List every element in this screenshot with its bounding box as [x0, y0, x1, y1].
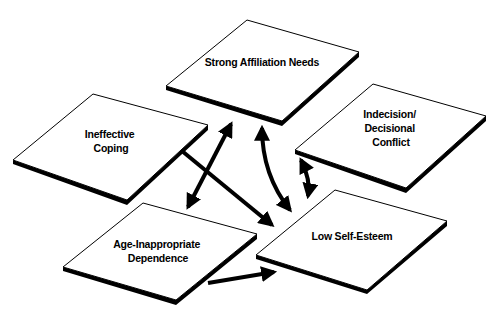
node-label-line: Ineffective [85, 128, 135, 140]
node-label-line: Age-Inappropriate [113, 238, 200, 250]
node-label-line: Coping [94, 142, 129, 154]
node-label-line: Conflict [372, 136, 410, 148]
edge-age-inappropriate-dependence-to-low-self-esteem [208, 272, 274, 283]
node-label-line: Dependence [128, 252, 189, 264]
node-indecision-decisional-conflict: Indecision/ Decisional Conflict [295, 84, 486, 193]
node-label-line: Low Self-Esteem [311, 230, 392, 242]
concept-diagram: Strong Affiliation Needs Ineffective Cop… [0, 0, 499, 320]
panel-face [166, 20, 359, 121]
node-label-line: Decisional [364, 122, 415, 134]
node-label: Strong Affiliation Needs [205, 56, 320, 68]
node-strong-affiliation-needs: Strong Affiliation Needs [166, 20, 359, 126]
node-label-line: Indecision/ [363, 108, 416, 120]
node-ineffective-coping: Ineffective Coping [13, 94, 208, 205]
edge-strong-affiliation-needs-low-self-esteem [262, 128, 290, 210]
node-age-inappropriate-dependence: Age-Inappropriate Dependence [63, 203, 257, 305]
edge-ineffective-coping-to-low-self-esteem [182, 151, 272, 225]
edge-indecision-low-self-esteem [301, 160, 309, 196]
node-label: Low Self-Esteem [311, 230, 392, 242]
node-label-line: Strong Affiliation Needs [205, 56, 320, 68]
